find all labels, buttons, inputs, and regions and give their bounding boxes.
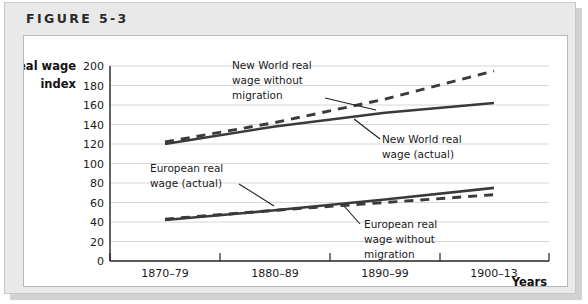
annotation-eu-actual-line1: European real [150,162,223,174]
xtick-1900-13: 1900–13 [470,267,518,280]
series-european-without-migration [165,195,494,219]
y-axis-title-line2: index [40,77,76,91]
ytick-100: 100 [83,158,104,171]
xtick-1870-79: 1870–79 [141,267,189,280]
annotation-eu-without-line1: European real [364,218,437,230]
x-axis-tick-labels: 1870–79 1880–89 1890–99 1900–13 [141,267,518,280]
annotation-european-without-migration: European real wage without migration [364,218,437,260]
gridlines [110,66,549,242]
annotation-eu-actual-line2: wage (actual) [150,177,222,189]
annotation-nw-actual-line1: New World real [382,133,462,145]
annotation-nw-without-line2: wage without [232,74,303,86]
ytick-160: 160 [83,99,104,112]
leader-line-eu-without [344,206,360,224]
leader-line-nw-actual [354,119,380,139]
ytick-140: 140 [83,119,104,132]
x-axis-title: Years [511,275,548,288]
annotation-nw-actual-line2: wage (actual) [382,148,454,160]
annotation-nw-without-line3: migration [232,89,283,101]
figure-title: FIGURE 5-3 [26,11,129,26]
figure-root: FIGURE 5-3 [0,0,588,304]
annotation-new-world-actual: New World real wage (actual) [382,133,462,160]
ytick-60: 60 [90,197,104,210]
ytick-80: 80 [90,177,104,190]
ytick-40: 40 [90,216,104,229]
figure-container: FIGURE 5-3 [4,2,576,294]
xtick-1890-99: 1890–99 [361,267,409,280]
ytick-20: 20 [90,236,104,249]
ytick-180: 180 [83,80,104,93]
y-axis-title: Real wage index [24,59,77,91]
annotation-european-actual: European real wage (actual) [150,162,223,189]
annotation-nw-without-line1: New World real [232,59,312,71]
y-axis-title-line1: Real wage [24,59,76,73]
annotation-eu-without-line2: wage without [364,233,435,245]
ytick-200: 200 [83,60,104,73]
annotation-new-world-without-migration: New World real wage without migration [232,59,312,101]
y-axis-tick-labels: 200 180 160 140 120 100 80 60 40 20 0 [83,60,104,268]
chart-svg: 200 180 160 140 120 100 80 60 40 20 0 Re… [24,36,569,288]
ytick-0: 0 [97,255,104,268]
leader-line-nw-without [325,98,376,110]
chart-panel: 200 180 160 140 120 100 80 60 40 20 0 Re… [23,35,568,287]
ytick-120: 120 [83,138,104,151]
xtick-1880-89: 1880–89 [251,267,299,280]
annotation-eu-without-line3: migration [364,248,415,260]
figure-title-bar: FIGURE 5-3 [10,6,580,32]
